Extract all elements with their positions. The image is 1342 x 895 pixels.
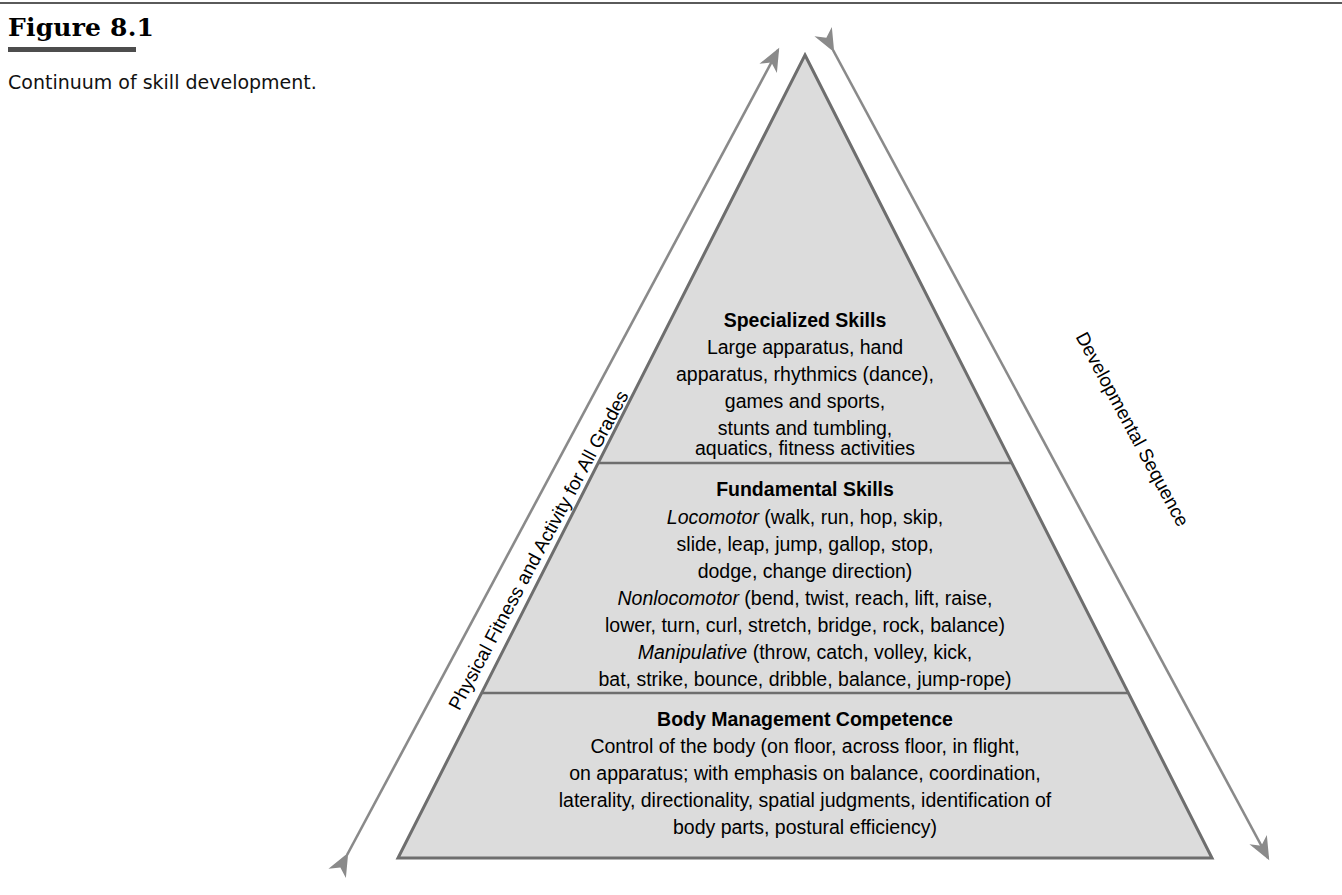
tier-line: laterality, directionality, spatial judg… [559, 789, 1052, 811]
tier-line: Large apparatus, hand [707, 336, 903, 358]
tier-line: dodge, change direction) [698, 560, 913, 582]
tier-line: slide, leap, jump, gallop, stop, [677, 533, 934, 555]
tier-line: body parts, postural efficiency) [673, 816, 937, 838]
tier-line: Nonlocomotor (bend, twist, reach, lift, … [618, 587, 993, 609]
tier-line-rest: (throw, catch, volley, kick, [747, 641, 972, 663]
tier-line: on apparatus; with emphasis on balance, … [569, 762, 1041, 784]
tier-heading-body-management: Body Management Competence [657, 708, 953, 730]
tier-heading-specialized: Specialized Skills [724, 309, 887, 331]
tier-line: games and sports, [725, 390, 885, 412]
tier-line: apparatus, rhythmics (dance), [676, 363, 934, 385]
tier-line: Locomotor (walk, run, hop, skip, [667, 506, 943, 528]
tier-heading-fundamental: Fundamental Skills [716, 478, 894, 500]
tier-line-rest: (bend, twist, reach, lift, raise, [739, 587, 993, 609]
tier-line-rest: (walk, run, hop, skip, [759, 506, 943, 528]
right-axis-label-text: Developmental Sequence [1072, 328, 1194, 530]
right-axis-label: Developmental Sequence [1072, 328, 1194, 530]
pyramid-diagram: Physical Fitness and Activity for All Gr… [0, 0, 1342, 895]
tier-line: stunts and tumbling, [718, 417, 893, 439]
tier-line: Control of the body (on floor, across fl… [590, 735, 1019, 757]
tier-line: Manipulative (throw, catch, volley, kick… [638, 641, 973, 663]
tier-category-locomotor: Locomotor [667, 506, 761, 528]
tier-line: lower, turn, curl, stretch, bridge, rock… [605, 614, 1005, 636]
tier-line: bat, strike, bounce, dribble, balance, j… [599, 668, 1012, 690]
tier-line: aquatics, fitness activities [695, 437, 915, 459]
tier-category-nonlocomotor: Nonlocomotor [618, 587, 741, 609]
tier-category-manipulative: Manipulative [638, 641, 748, 663]
